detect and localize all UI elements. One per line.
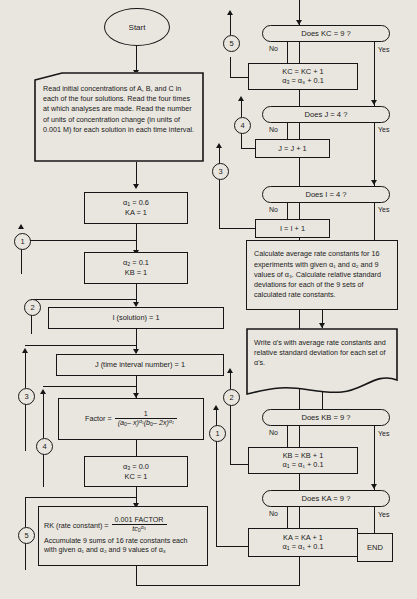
line-i-no — [287, 203, 288, 220]
arrow-conn4-right-up — [238, 96, 244, 101]
arrow-conn1-right-up — [213, 405, 219, 410]
kc-no-label: No — [268, 45, 279, 52]
line-conn5-lower — [25, 542, 26, 570]
line-kc-no — [287, 42, 288, 64]
line-conn2-to-ijoin — [31, 299, 136, 300]
rk-accumulate-text: Accumulate 9 sums of 16 rate constants e… — [44, 537, 202, 557]
connector-3-left: 3 — [18, 388, 35, 405]
calculate-averages-box: Calculate average rate constants for 16 … — [246, 240, 398, 310]
factor-box: Factor = 1 (a0– x)α₁(b0– 2x)α₂ — [58, 398, 204, 440]
line-rk-to-right — [136, 585, 300, 586]
rk-fraction: 0.001 FACTOR tc0α₃ — [112, 516, 167, 535]
decision-j: Does J = 4 ? — [262, 106, 390, 123]
kc-increment-box: KC = KC + 1 α3 = α₃ + 0.1 — [248, 63, 358, 90]
connector-4-left: 4 — [36, 438, 53, 455]
alpha1-ka-box: α1 = 0.6 KA = 1 — [84, 192, 188, 224]
line-conn1-right-up — [216, 410, 217, 426]
i-increment-label: I = I + 1 — [280, 224, 305, 233]
factor-equation: Factor = 1 (a0– x)α₁(b0– 2x)α₂ — [85, 410, 177, 429]
line-ka-out-left — [216, 546, 248, 547]
read-input-box: Read initial concentrations of A, B, and… — [34, 72, 204, 162]
alpha3-value: = 0.0 — [132, 462, 149, 471]
decision-ka: Does KA = 9 ? — [262, 490, 390, 507]
line-conn3-to-jjoin — [25, 345, 136, 346]
connector-5-left: 5 — [18, 527, 35, 544]
line-read-to-a1 — [136, 162, 137, 186]
kc-inc-line2: α3 = α₃ + 0.1 — [282, 76, 324, 86]
line-factor-to-a3 — [136, 440, 137, 456]
factor-label: Factor = — [85, 414, 112, 423]
line-conn1-to-a2join — [21, 240, 136, 241]
line-ka-to-conn1 — [216, 440, 217, 547]
alpha3-line: α3 = 0.0 — [123, 462, 149, 472]
arrow-into-ka-decision — [371, 484, 377, 489]
write-output-text: Write α's with average rate constants an… — [254, 338, 391, 369]
arrow-conn4-up — [40, 389, 46, 394]
connector-1-right: 1 — [209, 425, 226, 442]
alpha1-subscript: 1 — [127, 201, 130, 207]
arrow-into-i-decision — [371, 180, 377, 185]
line-conn4-upper — [43, 394, 44, 438]
i-solution-box: I (solution) = 1 — [48, 307, 224, 329]
line-conn5-upper — [25, 497, 26, 527]
arrow-read-to-a1 — [133, 184, 139, 189]
arrow-conn2-right-up — [227, 368, 233, 373]
i-increment-box: I = I + 1 — [255, 219, 330, 238]
line-kb-out-left — [230, 464, 248, 465]
start-label: Start — [129, 23, 146, 32]
arrow-conn3-right-up — [216, 143, 222, 148]
alpha1-value: = 0.6 — [132, 198, 149, 207]
line-conn5-to-rkjoin — [25, 497, 136, 498]
line-conn1-tail — [21, 248, 22, 274]
rk-equation: RK (rate constant) = 0.001 FACTOR tc0α₃ — [44, 516, 202, 535]
j-interval-label: J (time interval number) = 1 — [95, 360, 185, 369]
alpha2-kb-box: α2 = 0.1 KB = 1 — [84, 252, 188, 284]
line-kb-no — [287, 426, 288, 448]
decision-kc-label: Does KC = 9 ? — [301, 29, 351, 38]
end-label: END — [367, 543, 383, 553]
line-j-out-left — [241, 148, 255, 149]
j-no-label: No — [268, 126, 279, 133]
ka-inc-line2: α1 = α₁ + 0.1 — [282, 542, 323, 552]
line-ka-yes — [374, 507, 375, 533]
j-increment-box: J = J + 1 — [255, 139, 330, 158]
kb-yes-label: Yes — [377, 430, 390, 437]
line-conn4-lower — [43, 453, 44, 487]
rk-label: RK (rate constant) = — [44, 521, 109, 530]
arrow-into-j-decision — [371, 100, 377, 105]
alpha2-line: α2 = 0.1 — [123, 258, 149, 268]
decision-kb: Does KB = 9 ? — [262, 409, 390, 426]
arrow-conn1-up — [18, 224, 24, 229]
line-conn2-right-up — [230, 372, 231, 389]
rk-box: RK (rate constant) = 0.001 FACTOR tc0α₃ … — [38, 506, 208, 566]
ka-no-label: No — [268, 510, 279, 517]
kc-inc-line1: KC = KC + 1 — [282, 67, 324, 76]
line-start-to-read — [136, 46, 137, 72]
kb-inc-line2: α1 = α₁ + 0.1 — [282, 460, 323, 470]
line-conn4-right-up — [241, 100, 242, 117]
flowchart-page: Start Read initial concentrations of A, … — [0, 0, 417, 599]
j-yes-label: Yes — [377, 126, 390, 133]
decision-i-label: Does I = 4 ? — [305, 190, 346, 199]
alpha2-subscript: 2 — [127, 261, 130, 267]
alpha1-line: α1 = 0.6 — [123, 198, 149, 208]
decision-kc: Does KC = 9 ? — [262, 25, 390, 42]
line-i-out-left — [219, 228, 255, 229]
ka-yes-label: Yes — [377, 511, 390, 518]
read-input-text: Read initial concentrations of A, B, and… — [43, 84, 198, 135]
line-kb-to-conn2 — [230, 404, 231, 465]
decision-i: Does I = 4 ? — [262, 186, 390, 203]
line-ka-no — [287, 507, 288, 529]
kb-line: KB = 1 — [123, 268, 149, 277]
line-kc-to-conn5 — [230, 57, 231, 78]
alpha2-value: = 0.1 — [132, 258, 149, 267]
line-j-to-conn4 — [241, 132, 242, 149]
rk-numerator: 0.001 FACTOR — [112, 516, 167, 525]
start-terminator: Start — [104, 8, 170, 46]
line-write-to-kb — [322, 392, 323, 410]
arrow-conn5-right-up — [227, 10, 233, 15]
ka-increment-box: KA = KA + 1 α1 = α₁ + 0.1 — [248, 528, 358, 557]
j-interval-box: J (time interval number) = 1 — [56, 354, 224, 376]
line-conn3-lower — [25, 403, 26, 451]
line-a1-to-a2 — [136, 224, 137, 252]
